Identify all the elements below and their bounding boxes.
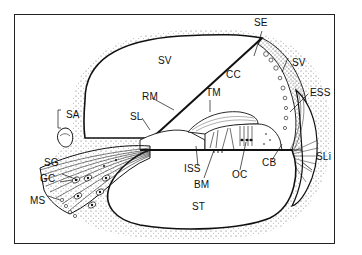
label-claudius-cells: CB <box>262 158 276 168</box>
label-stria-vascularis: SV <box>292 58 306 68</box>
label-cochlear-canal: CC <box>226 70 241 80</box>
label-ganglion-cells: GC <box>40 174 55 184</box>
label-tectorial-membrane: TM <box>206 88 221 98</box>
label-spiral-ganglion: SG <box>44 158 59 168</box>
label-scala-tympani: ST <box>192 202 205 212</box>
label-external-spiral-sulcus: ESS <box>310 88 331 98</box>
label-spiral-limbus: SL <box>130 112 143 122</box>
label-spiral-ligament: SLi <box>316 152 331 162</box>
label-scala-vestibuli: SV <box>158 56 172 66</box>
label-basilar-membrane: BM <box>194 180 209 190</box>
label-internal-spiral-sulcus: ISS <box>184 164 201 174</box>
label-stria-epithelium: SE <box>254 18 268 28</box>
cochlea-diagram: SV CC SE SV ESS RM TM SL SA SG GC MS ISS… <box>0 0 362 255</box>
spiral-artery <box>57 128 72 147</box>
label-organ-of-corti: OC <box>232 170 247 180</box>
label-reissners-membrane: RM <box>142 92 158 102</box>
label-spiral-artery: SA <box>66 110 80 120</box>
label-myelin-sheath: MS <box>30 196 45 206</box>
